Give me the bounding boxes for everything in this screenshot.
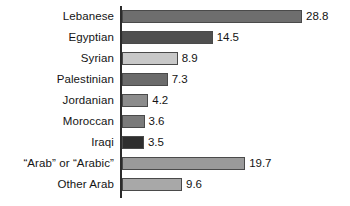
bar-group-syrian: 8.9 <box>122 48 198 69</box>
category-label-syrian: Syrian <box>0 52 114 65</box>
bar-jordanian <box>122 94 148 107</box>
bar-group-egyptian: 14.5 <box>122 27 239 48</box>
bar-group-moroccan: 3.6 <box>122 111 165 132</box>
chart-row: “Arab” or “Arabic” 19.7 <box>0 153 350 174</box>
bar-group-iraqi: 3.5 <box>122 132 164 153</box>
chart-row: Jordanian 4.2 <box>0 90 350 111</box>
bar-egyptian <box>122 31 213 44</box>
value-label-palestinian: 7.3 <box>172 73 188 86</box>
value-label-jordanian: 4.2 <box>152 94 168 107</box>
category-label-other-arab: Other Arab <box>0 178 114 191</box>
bar-palestinian <box>122 73 168 86</box>
category-label-jordanian: Jordanian <box>0 94 114 107</box>
value-label-other-arab: 9.6 <box>186 178 202 191</box>
chart-row: Other Arab 9.6 <box>0 174 350 195</box>
chart-row: Lebanese 28.8 <box>0 6 350 27</box>
category-label-iraqi: Iraqi <box>0 136 114 149</box>
value-label-egyptian: 14.5 <box>217 31 239 44</box>
bar-group-palestinian: 7.3 <box>122 69 188 90</box>
value-label-lebanese: 28.8 <box>306 10 328 23</box>
category-label-arab-or-arabic: “Arab” or “Arabic” <box>0 157 114 170</box>
chart-row: Iraqi 3.5 <box>0 132 350 153</box>
chart-row: Egyptian 14.5 <box>0 27 350 48</box>
category-label-lebanese: Lebanese <box>0 10 114 23</box>
value-label-syrian: 8.9 <box>182 52 198 65</box>
bar-group-arab-or-arabic: 19.7 <box>122 153 272 174</box>
bar-iraqi <box>122 136 144 149</box>
bar-lebanese <box>122 10 302 23</box>
chart-row: Syrian 8.9 <box>0 48 350 69</box>
category-label-moroccan: Moroccan <box>0 115 114 128</box>
value-label-moroccan: 3.6 <box>149 115 165 128</box>
bar-moroccan <box>122 115 145 128</box>
bar-group-jordanian: 4.2 <box>122 90 168 111</box>
bar-group-other-arab: 9.6 <box>122 174 202 195</box>
bar-arab-or-arabic <box>122 157 245 170</box>
category-label-palestinian: Palestinian <box>0 73 114 86</box>
chart-row: Moroccan 3.6 <box>0 111 350 132</box>
chart-row: Palestinian 7.3 <box>0 69 350 90</box>
value-label-arab-or-arabic: 19.7 <box>249 157 271 170</box>
bar-group-lebanese: 28.8 <box>122 6 328 27</box>
bar-other-arab <box>122 178 182 191</box>
bar-chart: Lebanese 28.8 Egyptian 14.5 Syrian 8.9 P… <box>0 0 350 206</box>
category-label-egyptian: Egyptian <box>0 31 114 44</box>
bar-syrian <box>122 52 178 65</box>
value-label-iraqi: 3.5 <box>148 136 164 149</box>
